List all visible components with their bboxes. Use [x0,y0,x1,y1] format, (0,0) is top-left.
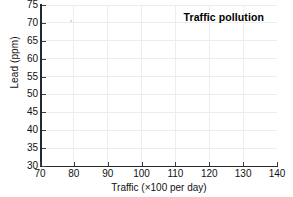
plot-area: Traffic pollution [40,5,277,166]
x-tick-mark [142,162,143,166]
x-tick-mark [243,162,244,166]
x-tick-label: 80 [59,169,89,179]
x-tick-mark [209,162,210,166]
y-axis-line [40,4,42,167]
y-tick-mark [42,130,46,131]
grid-lines [40,5,277,166]
y-tick-mark [42,112,46,113]
x-tick-mark [175,162,176,166]
x-tick-mark [40,162,41,166]
y-tick-label: 50 [18,89,38,99]
x-axis-label: Traffic (×100 per day) [40,182,278,193]
y-tick-mark [42,148,46,149]
y-tick-label: 60 [18,54,38,64]
y-tick-label: 55 [18,72,38,82]
y-tick-label: 70 [18,18,38,28]
chart-figure: Lead (ppm) [0,0,293,197]
y-tick-label: 40 [18,125,38,135]
y-tick-label: 65 [18,36,38,46]
x-tick-label: 140 [262,169,292,179]
y-tick-label: 35 [18,143,38,153]
x-tick-mark [108,162,109,166]
x-tick-label: 100 [127,169,157,179]
y-tick-label: 75 [18,0,38,10]
chart-title: Traffic pollution [184,11,264,23]
x-tick-label: 130 [228,169,258,179]
y-tick-mark [42,77,46,78]
x-tick-label: 90 [93,169,123,179]
x-tick-mark [277,162,278,166]
y-tick-label: 45 [18,107,38,117]
y-tick-mark [42,166,46,167]
x-tick-mark [74,162,75,166]
y-tick-mark [42,23,46,24]
x-tick-label: 70 [25,169,55,179]
y-tick-mark [42,41,46,42]
x-axis-line [40,166,278,168]
y-tick-mark [42,94,46,95]
y-tick-mark [42,5,46,6]
x-tick-label: 120 [194,169,224,179]
y-tick-mark [42,59,46,60]
x-tick-label: 110 [160,169,190,179]
